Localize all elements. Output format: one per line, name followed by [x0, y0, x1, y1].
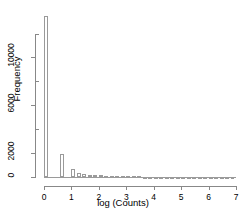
x-axis-tick	[154, 186, 155, 190]
x-axis-tick	[181, 186, 182, 190]
x-axis-tick	[209, 186, 210, 190]
histogram-figure: 02000600010000 01234567 Frequency log (C…	[0, 0, 246, 214]
x-axis-line	[44, 186, 236, 187]
x-axis-label: log (Counts)	[0, 197, 246, 208]
x-axis: 01234567	[0, 0, 246, 214]
x-axis-tick	[44, 186, 45, 190]
x-axis-tick	[236, 186, 237, 190]
x-axis-tick	[99, 186, 100, 190]
x-axis-tick	[126, 186, 127, 190]
x-axis-tick	[71, 186, 72, 190]
y-axis-label: Frequency	[11, 39, 25, 119]
